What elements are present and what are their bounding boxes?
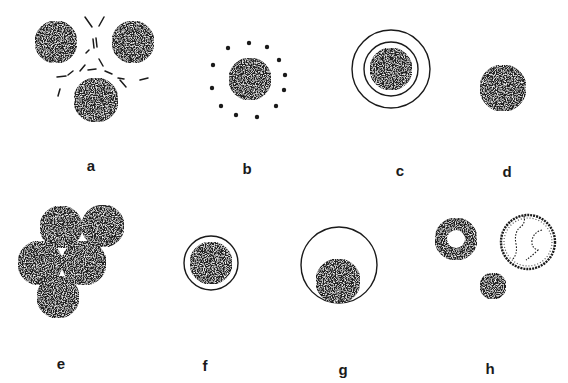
panel-e-cell-cluster	[18, 205, 124, 318]
panel-e	[18, 205, 124, 318]
boundary-dash	[68, 71, 73, 75]
panel-label-e: e	[57, 356, 65, 371]
granule-dot	[283, 73, 287, 77]
panel-h-hollow-cell	[435, 218, 477, 260]
panel-b-cell	[229, 58, 271, 100]
panel-label-b: b	[242, 161, 251, 176]
granule-dot	[247, 41, 251, 45]
panel-g-cell	[316, 259, 360, 303]
panel-label-c: c	[396, 163, 404, 178]
granule-dot	[274, 104, 278, 108]
panel-g	[301, 227, 377, 303]
stippled-cell	[316, 259, 360, 303]
granule-dot	[211, 63, 215, 67]
stippled-cell	[190, 242, 232, 284]
boundary-dash	[88, 69, 96, 70]
stippled-cell	[480, 273, 506, 299]
granule-dot	[219, 104, 223, 108]
panel-f	[184, 236, 238, 290]
boundary-dash	[58, 89, 60, 96]
granule-dot	[234, 113, 238, 117]
panel-h	[435, 215, 555, 299]
diagram-canvas	[0, 0, 568, 383]
panel-h-small-cell	[480, 273, 506, 299]
boundary-dash	[105, 71, 112, 74]
granule-dot	[282, 88, 286, 92]
light-cell-outline	[501, 215, 555, 269]
panel-h-light-cell	[501, 215, 555, 269]
panel-f-cell	[190, 242, 232, 284]
panel-c-cell	[370, 48, 412, 90]
boundary-dash	[93, 39, 94, 48]
panel-a	[35, 17, 154, 122]
boundary-dash	[99, 59, 103, 66]
stippled-cell	[112, 21, 154, 63]
boundary-dash	[99, 17, 104, 26]
boundary-dash	[96, 38, 97, 47]
panel-d	[480, 65, 526, 111]
boundary-dash	[85, 17, 92, 27]
panel-label-a: a	[87, 158, 95, 173]
panel-label-f: f	[203, 358, 208, 373]
boundary-dash	[80, 65, 85, 71]
panel-label-d: d	[502, 164, 511, 179]
granule-dot	[265, 45, 269, 49]
panel-label-h: h	[485, 361, 494, 376]
hollow-center	[447, 230, 465, 248]
stippled-cell	[82, 205, 124, 247]
boundary-dash	[120, 80, 126, 87]
boundary-dash	[140, 78, 148, 80]
boundary-dash	[57, 76, 66, 77]
stippled-cell	[480, 65, 526, 111]
stippled-cell	[35, 21, 77, 63]
granule-dot	[226, 46, 230, 50]
granule-dot	[255, 115, 259, 119]
granule-dot	[277, 58, 281, 62]
granule-dot	[210, 86, 214, 90]
stippled-cell	[74, 78, 118, 122]
panel-label-g: g	[338, 362, 347, 377]
panel-a-cells	[35, 21, 154, 122]
panel-b	[210, 41, 287, 119]
panel-d-cell	[480, 65, 526, 111]
stippled-cell	[370, 48, 412, 90]
boundary-dash	[86, 50, 89, 53]
stippled-cell	[37, 276, 79, 318]
stippled-cell	[229, 58, 271, 100]
boundary-dash	[118, 78, 124, 79]
panel-c	[352, 30, 430, 108]
